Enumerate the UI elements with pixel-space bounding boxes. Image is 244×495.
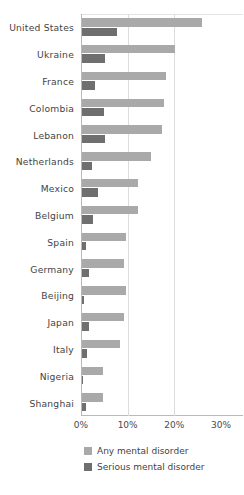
bar-any-mental-disorder bbox=[82, 179, 138, 187]
bar-any-mental-disorder bbox=[82, 72, 166, 80]
bar-any-mental-disorder bbox=[82, 340, 120, 348]
category-label: Belgium bbox=[0, 209, 74, 220]
chart-legend: Any mental disorderSerious mental disord… bbox=[84, 444, 244, 476]
chart-row: Lebanon bbox=[0, 121, 244, 148]
bar-any-mental-disorder bbox=[82, 206, 138, 214]
bar-serious-mental-disorder bbox=[82, 188, 98, 196]
bar-any-mental-disorder bbox=[82, 286, 126, 294]
legend-label: Serious mental disorder bbox=[97, 462, 205, 472]
bar-any-mental-disorder bbox=[82, 99, 164, 107]
bar-serious-mental-disorder bbox=[82, 135, 105, 143]
category-label: Nigeria bbox=[0, 370, 74, 381]
chart-rows: United StatesUkraineFranceColombiaLebano… bbox=[0, 14, 244, 416]
category-label: United States bbox=[0, 22, 74, 33]
category-label: Netherlands bbox=[0, 156, 74, 167]
bar-serious-mental-disorder bbox=[82, 215, 93, 223]
legend-swatch-serious bbox=[84, 463, 92, 471]
bar-any-mental-disorder bbox=[82, 259, 124, 267]
bar-chart: United StatesUkraineFranceColombiaLebano… bbox=[0, 10, 244, 495]
chart-row: Japan bbox=[0, 309, 244, 336]
bar-serious-mental-disorder bbox=[82, 108, 104, 116]
x-axis-tick-labels: 0%10%20%30% bbox=[0, 420, 244, 436]
x-tick-label: 0% bbox=[74, 420, 88, 430]
bar-any-mental-disorder bbox=[82, 18, 202, 26]
chart-row: Ukraine bbox=[0, 41, 244, 68]
chart-row: Germany bbox=[0, 255, 244, 282]
bar-serious-mental-disorder bbox=[82, 54, 105, 62]
bar-any-mental-disorder bbox=[82, 152, 151, 160]
legend-swatch-any bbox=[84, 447, 92, 455]
legend-label: Any mental disorder bbox=[97, 446, 188, 456]
chart-row: France bbox=[0, 68, 244, 95]
bar-any-mental-disorder bbox=[82, 393, 103, 401]
bar-any-mental-disorder bbox=[82, 233, 126, 241]
category-label: Germany bbox=[0, 263, 74, 274]
clipped-header-strip bbox=[0, 0, 244, 10]
chart-row: Netherlands bbox=[0, 148, 244, 175]
chart-row: Nigeria bbox=[0, 362, 244, 389]
chart-row: United States bbox=[0, 14, 244, 41]
bar-serious-mental-disorder bbox=[82, 349, 87, 357]
bar-any-mental-disorder bbox=[82, 313, 124, 321]
bar-serious-mental-disorder bbox=[82, 296, 84, 304]
bar-serious-mental-disorder bbox=[82, 376, 83, 384]
category-label: Japan bbox=[0, 317, 74, 328]
category-label: Lebanon bbox=[0, 129, 74, 140]
category-label: Shanghai bbox=[0, 397, 74, 408]
chart-row: Spain bbox=[0, 228, 244, 255]
legend-item[interactable]: Any mental disorder bbox=[84, 444, 244, 458]
category-label: Spain bbox=[0, 236, 74, 247]
bar-serious-mental-disorder bbox=[82, 242, 86, 250]
bar-any-mental-disorder bbox=[82, 367, 103, 375]
chart-row: Shanghai bbox=[0, 389, 244, 416]
legend-item[interactable]: Serious mental disorder bbox=[84, 460, 244, 474]
category-label: Colombia bbox=[0, 102, 74, 113]
category-label: Italy bbox=[0, 343, 74, 354]
bar-serious-mental-disorder bbox=[82, 403, 86, 411]
category-label: France bbox=[0, 75, 74, 86]
x-tick-label: 30% bbox=[211, 420, 231, 430]
bar-serious-mental-disorder bbox=[82, 269, 89, 277]
bar-serious-mental-disorder bbox=[82, 162, 92, 170]
bar-any-mental-disorder bbox=[82, 45, 175, 53]
chart-row: Beijing bbox=[0, 282, 244, 309]
category-label: Ukraine bbox=[0, 49, 74, 60]
category-label: Beijing bbox=[0, 290, 74, 301]
bar-serious-mental-disorder bbox=[82, 28, 117, 36]
x-tick-label: 20% bbox=[164, 420, 184, 430]
chart-row: Colombia bbox=[0, 94, 244, 121]
chart-row: Belgium bbox=[0, 202, 244, 229]
chart-row: Mexico bbox=[0, 175, 244, 202]
bar-any-mental-disorder bbox=[82, 125, 162, 133]
chart-row: Italy bbox=[0, 336, 244, 363]
x-tick-label: 10% bbox=[118, 420, 138, 430]
category-label: Mexico bbox=[0, 183, 74, 194]
bar-serious-mental-disorder bbox=[82, 322, 89, 330]
bar-serious-mental-disorder bbox=[82, 81, 95, 89]
